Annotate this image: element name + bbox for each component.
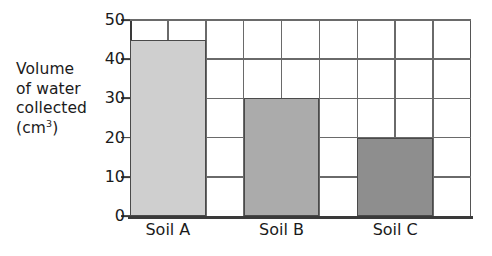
plot-area: 01020304050 Soil ASoil BSoil C bbox=[130, 20, 471, 216]
gridline-horizontal bbox=[130, 19, 471, 21]
x-axis-label-soil-a: Soil A bbox=[130, 222, 206, 238]
x-axis-line bbox=[128, 216, 473, 219]
y-axis-label-line-1: Volume bbox=[16, 60, 112, 80]
y-axis-tick-label: 30 bbox=[105, 90, 125, 106]
y-axis-label-units: (cm3) bbox=[16, 119, 112, 139]
y-axis-tick-label: 50 bbox=[105, 12, 125, 28]
x-axis-label-soil-b: Soil B bbox=[244, 222, 320, 238]
y-axis-tick-label: 0 bbox=[115, 208, 125, 224]
bar-chart-figure: Volume of water collected (cm3) 01020304… bbox=[0, 0, 492, 256]
bar-soil-c bbox=[357, 138, 433, 216]
y-axis-tick-label: 10 bbox=[105, 169, 125, 185]
y-axis-tick-label: 40 bbox=[105, 51, 125, 67]
bar-soil-b bbox=[244, 98, 320, 216]
x-axis-label-soil-c: Soil C bbox=[357, 222, 433, 238]
y-axis-label-line-3: collected bbox=[16, 99, 112, 119]
y-axis-tick-label: 20 bbox=[105, 130, 125, 146]
y-axis-label: Volume of water collected (cm3) bbox=[16, 60, 112, 138]
y-axis-units-paren: ) bbox=[52, 119, 58, 137]
bar-soil-a bbox=[130, 40, 206, 216]
y-axis-units-text: (cm bbox=[16, 119, 46, 137]
y-axis-label-line-2: of water bbox=[16, 80, 112, 100]
